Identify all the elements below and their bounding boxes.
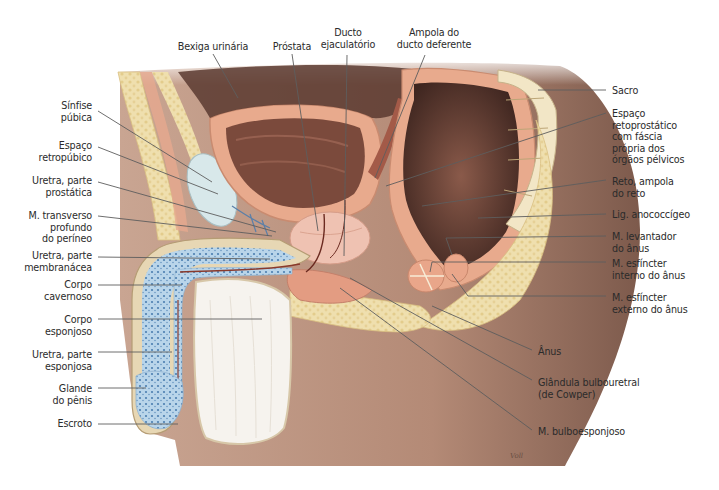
label-m-esfincter-externo: M. esfíncter externo do ânus xyxy=(612,292,688,315)
label-ampola-ducto-deferente: Ampola do ducto deferente xyxy=(392,27,476,50)
scrotum xyxy=(194,279,291,444)
artist-signature: Voll xyxy=(510,452,523,460)
label-corpo-esponjoso: Corpo esponjoso xyxy=(20,314,92,337)
label-escroto: Escroto xyxy=(20,418,92,430)
label-m-transverso-profundo-perineo: M. transverso profundo do períneo xyxy=(20,210,92,245)
label-corpo-cavernoso: Corpo cavernoso xyxy=(20,279,92,302)
label-glandula-bulbouretral: Glândula bulbouretral (de Cowper) xyxy=(538,377,639,400)
label-espaco-retoprostatico: Espaço retoprostático com fáscia própria… xyxy=(612,108,684,166)
anatomy-figure: Bexiga urinária Próstata Ducto ejaculató… xyxy=(0,0,719,490)
label-m-esfincter-interno: M. esfíncter interno do ânus xyxy=(612,258,685,281)
label-glande-penis: Glande do pênis xyxy=(20,383,92,406)
label-anus: Ânus xyxy=(538,346,561,358)
label-sacro: Sacro xyxy=(612,85,638,97)
label-prostata: Próstata xyxy=(267,41,317,53)
label-m-bulboesponjoso: M. bulboesponjoso xyxy=(538,426,625,438)
label-bexiga-urinaria: Bexiga urinária xyxy=(168,41,258,53)
label-uretra-membranacea: Uretra, parte membranácea xyxy=(10,250,92,273)
label-reto-ampola: Reto, ampola do reto xyxy=(612,176,674,199)
label-uretra-prostatica: Uretra, parte prostática xyxy=(20,175,92,198)
label-m-levantador-anus: M. levantador do ânus xyxy=(612,231,676,254)
label-lig-anococcigeo: Lig. anococcígeo xyxy=(612,209,690,221)
label-espaco-retropubico: Espaço retropúbico xyxy=(20,140,92,163)
label-sinfise-pubica: Sínfise púbica xyxy=(30,100,92,123)
label-ducto-ejaculatorio: Ducto ejaculatório xyxy=(318,27,378,50)
label-uretra-esponjosa: Uretra, parte esponjosa xyxy=(10,349,92,372)
